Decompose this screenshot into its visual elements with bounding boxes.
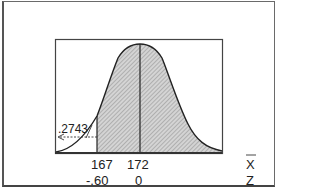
z-axis-label: Z xyxy=(246,174,254,187)
z-tick-neg60: -.60 xyxy=(86,174,108,187)
z-tick-0: 0 xyxy=(135,174,142,187)
x-tick-167: 167 xyxy=(91,158,113,171)
x-axis-label: X xyxy=(246,158,255,171)
area-label: .2743 xyxy=(58,123,88,135)
x-tick-172: 172 xyxy=(127,158,149,171)
